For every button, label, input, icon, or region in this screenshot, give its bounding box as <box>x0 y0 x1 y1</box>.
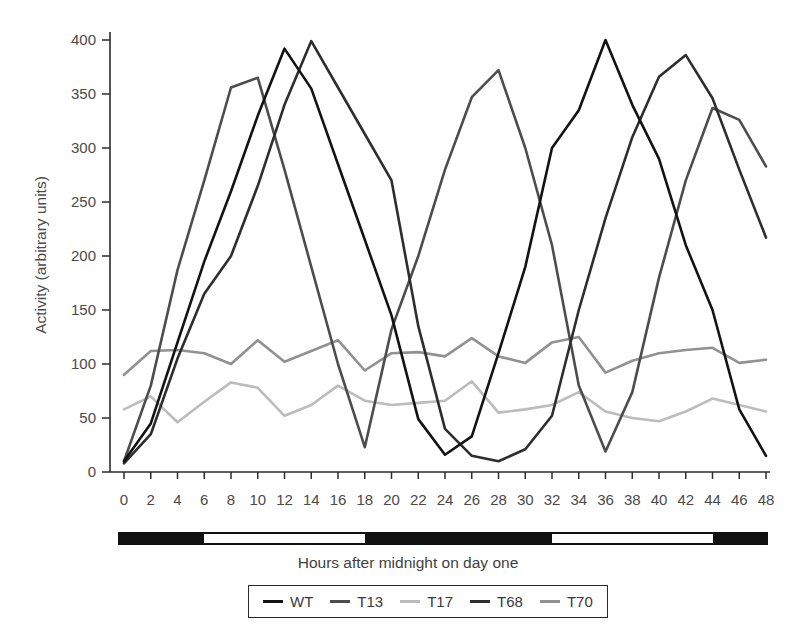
x-tick-label: 20 <box>378 491 406 509</box>
series-line-WT <box>124 40 766 461</box>
legend-line-swatch <box>400 600 420 603</box>
legend-item-WT: WT <box>263 593 313 610</box>
x-tick-label: 30 <box>511 491 539 509</box>
x-tick-label: 14 <box>297 491 325 509</box>
x-tick-label: 12 <box>271 491 299 509</box>
activity-rhythm-figure: 050100150200250300350400 024681012141618… <box>0 0 791 635</box>
chart-legend: WTT13T17T68T70 <box>248 585 608 618</box>
x-tick-label: 48 <box>752 491 780 509</box>
legend-label: T17 <box>427 593 453 610</box>
legend-line-swatch <box>330 600 350 603</box>
x-tick-label: 0 <box>110 491 138 509</box>
x-tick-label: 2 <box>137 491 165 509</box>
legend-line-swatch <box>263 600 283 603</box>
legend-label: WT <box>290 593 313 610</box>
y-tick-label: 350 <box>50 85 96 103</box>
y-axis-title: Activity (arbitrary units) <box>32 130 54 380</box>
photoperiod-light-segment <box>204 534 365 543</box>
x-tick-label: 26 <box>458 491 486 509</box>
y-tick-label: 250 <box>50 193 96 211</box>
y-tick-label: 0 <box>50 463 96 481</box>
legend-line-swatch <box>540 600 560 603</box>
x-tick-label: 38 <box>618 491 646 509</box>
x-tick-label: 24 <box>431 491 459 509</box>
x-tick-label: 28 <box>485 491 513 509</box>
x-axis-title: Hours after midnight on day one <box>123 554 693 572</box>
x-tick-label: 16 <box>324 491 352 509</box>
legend-item-T68: T68 <box>470 593 523 610</box>
x-tick-label: 8 <box>217 491 245 509</box>
y-tick-label: 400 <box>50 31 96 49</box>
y-tick-label: 100 <box>50 355 96 373</box>
y-tick-label: 200 <box>50 247 96 265</box>
x-tick-label: 40 <box>645 491 673 509</box>
x-tick-label: 34 <box>565 491 593 509</box>
y-tick-label: 150 <box>50 301 96 319</box>
legend-label: T68 <box>497 593 523 610</box>
x-tick-label: 4 <box>164 491 192 509</box>
x-tick-label: 36 <box>592 491 620 509</box>
y-tick-label: 50 <box>50 409 96 427</box>
legend-item-T70: T70 <box>540 593 593 610</box>
legend-item-T13: T13 <box>330 593 383 610</box>
x-tick-label: 32 <box>538 491 566 509</box>
photoperiod-light-segment <box>552 534 713 543</box>
series-line-T13 <box>124 70 766 461</box>
x-tick-label: 42 <box>672 491 700 509</box>
y-tick-label: 300 <box>50 139 96 157</box>
legend-label: T13 <box>357 593 383 610</box>
light-dark-photoperiod-bar <box>118 532 768 545</box>
series-line-T17 <box>124 381 766 422</box>
x-tick-label: 44 <box>699 491 727 509</box>
x-tick-label: 46 <box>725 491 753 509</box>
x-tick-label: 6 <box>190 491 218 509</box>
x-tick-label: 10 <box>244 491 272 509</box>
x-tick-label: 22 <box>404 491 432 509</box>
legend-line-swatch <box>470 600 490 603</box>
legend-item-T17: T17 <box>400 593 453 610</box>
legend-label: T70 <box>567 593 593 610</box>
x-tick-label: 18 <box>351 491 379 509</box>
series-line-T70 <box>124 337 766 375</box>
